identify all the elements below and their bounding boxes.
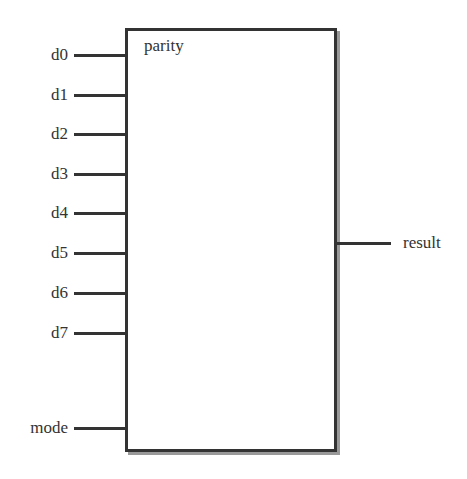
input-label-d3: d3 — [51, 164, 68, 184]
input-label-d7: d7 — [51, 323, 68, 343]
input-pin-d6 — [74, 292, 126, 295]
input-pin-d4 — [74, 212, 126, 215]
input-pin-d7 — [74, 332, 126, 335]
input-pin-d3 — [74, 173, 126, 176]
input-label-d4: d4 — [51, 203, 68, 223]
output-pin-result — [337, 242, 391, 245]
block-title: parity — [144, 36, 184, 56]
input-label-d1: d1 — [51, 85, 68, 105]
input-pin-mode — [74, 427, 126, 430]
input-pin-d1 — [74, 94, 126, 97]
input-pin-d0 — [74, 54, 126, 57]
input-label-mode: mode — [30, 418, 68, 438]
parity-block — [125, 28, 337, 452]
input-pin-d5 — [74, 252, 126, 255]
input-label-d6: d6 — [51, 283, 68, 303]
input-label-d0: d0 — [51, 45, 68, 65]
output-label-result: result — [403, 233, 441, 253]
input-pin-d2 — [74, 133, 126, 136]
input-label-d5: d5 — [51, 243, 68, 263]
input-label-d2: d2 — [51, 124, 68, 144]
